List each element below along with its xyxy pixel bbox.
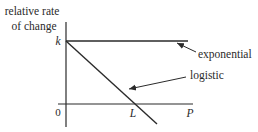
P-label: P [185,107,193,119]
exponential-label: exponential [198,48,252,61]
exponential-arrow [177,43,196,52]
logistic-line [66,41,157,124]
logistic-arrow [129,77,186,89]
ylabel-line1: relative rate [5,5,60,17]
L-label: L [129,107,136,119]
origin-label: 0 [55,106,61,118]
relative-rate-diagram: relative rate of change k 0 L P exponent… [0,0,258,132]
ylabel-line2: of change [11,20,56,33]
k-label: k [55,35,61,47]
logistic-label: logistic [190,69,224,82]
